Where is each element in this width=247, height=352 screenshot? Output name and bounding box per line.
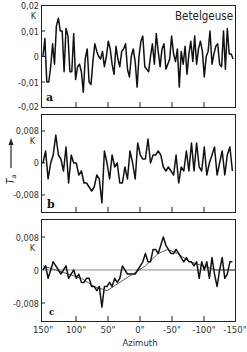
series-line-c xyxy=(43,237,232,307)
chart-title: Betelgeuse xyxy=(175,9,233,23)
y-tick-label: 0,01 xyxy=(21,27,39,37)
y-tick-label: 0,02 xyxy=(21,1,39,11)
y-axis-symbol: Ta xyxy=(5,175,18,185)
x-tick-label: 100" xyxy=(66,324,86,335)
x-tick-label: 0" xyxy=(135,324,144,335)
panel-label-b: b xyxy=(47,198,55,211)
arrowhead-icon xyxy=(9,138,14,145)
y-tick-label: 0,008 xyxy=(16,233,39,243)
series-line-b xyxy=(43,135,232,203)
y-tick-label: -0,008 xyxy=(13,190,39,200)
panel-b: 0,008 K 0 -0,008 b xyxy=(13,115,236,213)
y-tick-label: 0 xyxy=(34,52,39,62)
panel-label-c: c xyxy=(49,307,55,317)
y-axis-label: Ta xyxy=(5,138,18,184)
y-tick-label: -0,02 xyxy=(18,102,39,112)
panel-label-a: a xyxy=(46,91,53,104)
y-tick-label: 0,008 xyxy=(16,126,39,136)
x-tick-label: 150" xyxy=(33,324,53,335)
x-tick-label: -50" xyxy=(163,324,181,335)
panel-a: 0,02 K 0,01 0 -0,01 -0,02 Betelgeuse a xyxy=(18,1,235,112)
y-tick-label: -0,008 xyxy=(13,299,39,309)
y-unit-label: K xyxy=(31,11,37,21)
panel-c: 0,008 K 0 -0,008 c 150" 100" 50" 0" -50"… xyxy=(13,220,247,349)
x-axis-label: Azimuth xyxy=(122,337,157,348)
y-tick-label: -0,01 xyxy=(18,78,39,88)
x-tick-label: -100" xyxy=(192,324,215,335)
x-tick-label: 50" xyxy=(101,324,116,335)
y-axis-subscript: a xyxy=(10,175,18,179)
figure: 0,02 K 0,01 0 -0,01 -0,02 Betelgeuse a 0… xyxy=(0,0,247,352)
y-unit-label: K xyxy=(30,243,36,253)
x-tick-label: -150" xyxy=(223,324,246,335)
y-tick-label: 0 xyxy=(34,158,39,168)
series-line-a xyxy=(43,18,233,92)
y-unit-label: K xyxy=(30,136,36,146)
y-tick-label: 0 xyxy=(34,266,39,276)
